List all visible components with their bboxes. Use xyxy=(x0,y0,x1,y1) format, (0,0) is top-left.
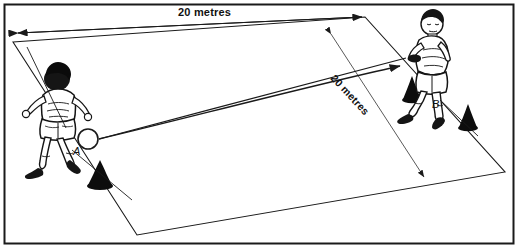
soccer-ball-icon xyxy=(78,129,98,149)
player-a-label: A xyxy=(73,145,80,157)
top-distance-label: 20 metres xyxy=(178,6,231,18)
player-b-label: B xyxy=(432,98,439,110)
diagram-svg xyxy=(0,0,518,248)
diagram-canvas: 20 metres 20 metres A B xyxy=(0,0,518,248)
